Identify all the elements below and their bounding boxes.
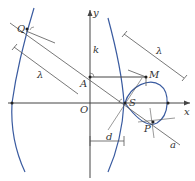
y-axis-label: y (93, 8, 99, 18)
line-a-label: a (170, 140, 176, 150)
point-left-vertex (11, 102, 14, 105)
lambda-left-label: λ (37, 70, 43, 80)
x-axis-label: x (184, 107, 190, 117)
point-m (145, 76, 148, 79)
point-q (26, 28, 29, 31)
point-m-label: M (149, 70, 159, 80)
lambda-left-segment (14, 47, 78, 94)
origin-label: O (80, 105, 88, 115)
line-q-a (10, 23, 180, 145)
point-a-label: A (80, 79, 87, 89)
length-d-label: d (106, 132, 112, 142)
point-p-label: P (144, 124, 151, 134)
x-axis-arrow-icon (184, 101, 190, 106)
point-a (89, 76, 92, 79)
point-loop-vertex (167, 102, 170, 105)
y-axis-arrow-icon (88, 10, 93, 16)
point-s (124, 102, 127, 105)
diagram-canvas: y x O Q A M S P k λ λ d a (0, 0, 195, 181)
diagram-svg (0, 0, 195, 181)
tangent-q (26, 31, 55, 43)
point-q-label: Q (17, 24, 25, 34)
lambda-right-label: λ (156, 46, 162, 56)
point-s-label: S (129, 98, 136, 108)
point-p (152, 121, 155, 124)
length-k-label: k (93, 45, 99, 55)
